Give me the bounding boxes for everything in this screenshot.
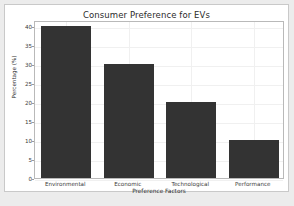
chart-title: Consumer Preference for EVs	[5, 10, 288, 20]
y-tick-mark	[32, 141, 34, 142]
y-tick-label: 40	[18, 24, 32, 30]
y-tick-mark	[32, 122, 34, 123]
bar	[104, 64, 154, 178]
y-tick-label: 30	[18, 62, 32, 68]
y-tick-label: 5	[18, 157, 32, 163]
bar	[41, 26, 91, 178]
x-axis-label: Preference Factors	[34, 188, 284, 194]
y-tick-label: 15	[18, 119, 32, 125]
y-tick-mark	[32, 27, 34, 28]
chart-figure: Consumer Preference for EVs 051015202530…	[4, 4, 289, 192]
x-tick-label: Technological	[159, 181, 222, 187]
y-axis-label: Percentage (%)	[11, 37, 17, 117]
y-tick-mark	[32, 179, 34, 180]
x-tick-label: Economic	[97, 181, 160, 187]
bar-series	[35, 22, 283, 178]
y-tick-mark	[32, 65, 34, 66]
x-tick-label: Environmental	[34, 181, 97, 187]
y-tick-label: 0	[18, 176, 32, 182]
bar	[166, 102, 216, 178]
x-tick-label: Performance	[222, 181, 285, 187]
y-tick-mark	[32, 84, 34, 85]
y-tick-mark	[32, 103, 34, 104]
y-axis-ticks: 0510152025303540	[17, 21, 32, 179]
y-tick-label: 10	[18, 138, 32, 144]
y-tick-label: 25	[18, 81, 32, 87]
y-tick-label: 20	[18, 100, 32, 106]
y-tick-mark	[32, 46, 34, 47]
y-tick-label: 35	[18, 43, 32, 49]
bar	[229, 140, 279, 178]
y-tick-mark	[32, 160, 34, 161]
plot-area	[34, 21, 284, 179]
